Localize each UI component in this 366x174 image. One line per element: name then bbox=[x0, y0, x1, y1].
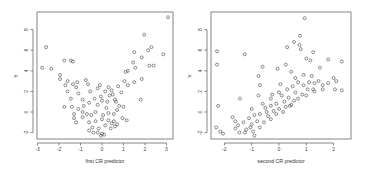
data-point bbox=[140, 78, 143, 81]
data-point bbox=[278, 91, 281, 94]
data-point bbox=[245, 128, 248, 131]
data-point bbox=[294, 91, 297, 94]
x-axis-right: -2-1012 bbox=[222, 143, 335, 152]
data-point bbox=[102, 114, 105, 117]
data-point bbox=[88, 121, 91, 124]
data-point bbox=[298, 44, 301, 47]
data-point bbox=[105, 106, 108, 109]
data-point bbox=[253, 134, 256, 137]
data-point bbox=[231, 116, 234, 119]
x-tick-label: 3 bbox=[165, 146, 168, 152]
data-point bbox=[257, 94, 260, 97]
data-point bbox=[317, 80, 320, 83]
y-tick-label: 6 bbox=[197, 49, 203, 52]
x-tick-label: -2 bbox=[222, 146, 227, 152]
data-point bbox=[112, 113, 115, 116]
x-tick-label: -1 bbox=[78, 146, 83, 152]
plot-frame-right bbox=[211, 12, 351, 139]
data-point bbox=[106, 100, 109, 103]
data-point bbox=[110, 122, 113, 125]
data-point bbox=[132, 61, 135, 64]
data-point bbox=[299, 48, 302, 51]
data-point bbox=[167, 16, 170, 19]
data-point bbox=[64, 84, 67, 87]
data-point bbox=[84, 79, 87, 82]
data-point bbox=[41, 66, 44, 69]
data-point bbox=[261, 65, 264, 68]
y-axis-left: -202468 bbox=[23, 28, 33, 135]
data-point bbox=[66, 80, 69, 83]
data-point bbox=[297, 97, 300, 100]
data-point bbox=[253, 114, 256, 117]
data-point bbox=[113, 125, 116, 128]
data-point bbox=[147, 49, 150, 52]
y-tick-label: 8 bbox=[23, 28, 29, 31]
data-point bbox=[109, 127, 112, 130]
data-point bbox=[287, 96, 290, 99]
data-point bbox=[290, 70, 293, 73]
data-point bbox=[318, 66, 321, 69]
data-point bbox=[272, 109, 275, 112]
data-point bbox=[269, 118, 272, 121]
data-point bbox=[69, 97, 72, 100]
data-point bbox=[85, 113, 88, 116]
data-point bbox=[293, 40, 296, 43]
data-point bbox=[308, 81, 311, 84]
data-point bbox=[91, 126, 94, 129]
data-point bbox=[293, 99, 296, 102]
data-point bbox=[216, 63, 219, 66]
data-point bbox=[75, 86, 78, 89]
data-point bbox=[302, 73, 305, 76]
data-point bbox=[143, 33, 146, 36]
data-point bbox=[303, 17, 306, 20]
data-point bbox=[222, 132, 225, 135]
data-point bbox=[125, 119, 128, 122]
data-point bbox=[275, 113, 278, 116]
data-point bbox=[261, 102, 264, 105]
data-point bbox=[321, 88, 324, 91]
x-tick-label: -2 bbox=[57, 146, 62, 152]
data-point bbox=[126, 84, 129, 87]
data-point bbox=[123, 80, 126, 83]
data-point bbox=[76, 81, 79, 84]
data-point bbox=[90, 114, 93, 117]
data-point bbox=[111, 93, 114, 96]
data-point bbox=[312, 51, 315, 54]
data-point bbox=[284, 105, 287, 108]
data-point bbox=[148, 64, 151, 67]
data-point bbox=[63, 105, 66, 108]
data-point bbox=[267, 115, 270, 118]
y-tick-label: 2 bbox=[197, 90, 203, 93]
data-point bbox=[107, 119, 110, 122]
figure: -3-2-10123 -202468 first CR predictor Y … bbox=[0, 0, 366, 174]
points-left bbox=[41, 16, 170, 137]
y-tick-label: 2 bbox=[23, 90, 29, 93]
data-point bbox=[340, 89, 343, 92]
data-point bbox=[140, 56, 143, 59]
panel-left: -3-2-10123 -202468 first CR predictor Y bbox=[13, 12, 173, 164]
data-point bbox=[258, 84, 261, 87]
data-point bbox=[299, 34, 302, 37]
data-point bbox=[70, 105, 73, 108]
x-axis-title-right: second CR predictor bbox=[257, 158, 305, 164]
data-point bbox=[243, 53, 246, 56]
data-point bbox=[81, 111, 84, 114]
data-point bbox=[94, 111, 97, 114]
x-tick-label: 0 bbox=[101, 146, 104, 152]
x-axis-left: -3-2-10123 bbox=[35, 143, 168, 152]
data-point bbox=[256, 120, 259, 123]
data-point bbox=[66, 90, 69, 93]
data-point bbox=[77, 92, 80, 95]
data-point bbox=[59, 78, 62, 81]
y-tick-label: 6 bbox=[23, 49, 29, 52]
data-point bbox=[250, 123, 253, 126]
y-tick-label: 4 bbox=[23, 69, 29, 72]
panel-right: -2-1012 -202468 second CR predictor Y bbox=[187, 12, 351, 164]
data-point bbox=[133, 51, 136, 54]
data-point bbox=[96, 131, 99, 134]
data-point bbox=[96, 103, 99, 106]
data-point bbox=[234, 127, 237, 130]
data-point bbox=[284, 63, 287, 66]
data-point bbox=[275, 102, 278, 105]
data-point bbox=[335, 80, 338, 83]
